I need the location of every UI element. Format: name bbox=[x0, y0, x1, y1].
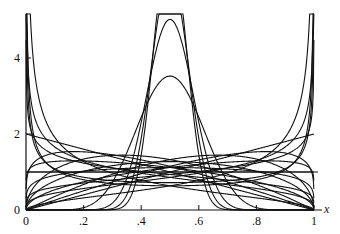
density-curves bbox=[26, 14, 318, 210]
x-tick-label: .4 bbox=[137, 214, 146, 228]
y-tick-label: 2 bbox=[14, 127, 20, 141]
x-tick-label: .6 bbox=[194, 214, 203, 228]
y-tick-label: 4 bbox=[14, 51, 20, 65]
density-curve bbox=[26, 40, 314, 203]
beta-density-chart: 0.2.4.6.81 024 x bbox=[0, 0, 340, 234]
x-ticks: 0.2.4.6.81 bbox=[23, 205, 317, 228]
x-tick-label: 1 bbox=[311, 214, 317, 228]
density-curve bbox=[26, 14, 314, 183]
density-curve bbox=[26, 14, 314, 210]
x-tick-label: .2 bbox=[79, 214, 88, 228]
density-curve bbox=[26, 40, 314, 203]
density-curve bbox=[26, 14, 314, 210]
density-curve bbox=[26, 14, 314, 207]
x-tick-label: .8 bbox=[252, 214, 261, 228]
y-tick-label: 0 bbox=[14, 203, 20, 217]
density-curve bbox=[26, 19, 314, 210]
density-curve bbox=[26, 14, 314, 210]
x-axis-label: x bbox=[323, 202, 330, 216]
x-tick-label: 0 bbox=[23, 214, 29, 228]
density-curve bbox=[26, 14, 314, 207]
density-curve bbox=[26, 14, 314, 210]
